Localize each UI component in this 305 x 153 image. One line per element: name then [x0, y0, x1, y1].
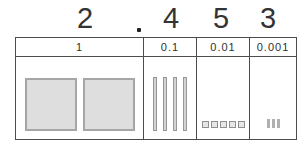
rod-block: [173, 77, 177, 131]
small-square-block: [229, 121, 236, 128]
thousandths-blocks-cell: [250, 57, 296, 139]
flat-square-block: [83, 78, 135, 131]
tiny-rod-block: [277, 119, 280, 128]
header-thousandths: 0.001: [250, 38, 296, 57]
digit-hundredths: 5: [213, 0, 229, 36]
small-square-block: [211, 121, 218, 128]
digit-ones: 2: [77, 0, 93, 36]
header-tenths: 0.1: [144, 38, 197, 57]
small-square-block: [238, 121, 245, 128]
rod-block: [183, 77, 187, 131]
header-hundredths: 0.01: [197, 38, 250, 57]
place-value-chart: 2 4 5 3 1 0.1 0.01 0.001: [0, 0, 305, 153]
digit-tenths: 4: [163, 0, 179, 36]
hundredths-blocks-cell: [197, 57, 250, 139]
flat-square-block: [25, 78, 77, 131]
ones-blocks-cell: [16, 57, 144, 139]
tenths-blocks-cell: [144, 57, 197, 139]
small-square-block: [202, 121, 209, 128]
header-ones: 1: [16, 38, 144, 57]
rod-block: [163, 77, 167, 131]
rod-block: [153, 77, 157, 131]
tiny-rod-block: [272, 119, 275, 128]
place-value-table: 1 0.1 0.01 0.001: [15, 37, 297, 140]
decimal-point: [137, 28, 141, 32]
tiny-rod-block: [267, 119, 270, 128]
small-square-block: [220, 121, 227, 128]
digit-thousandths: 3: [260, 0, 276, 36]
